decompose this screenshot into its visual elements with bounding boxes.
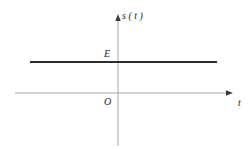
level-value-label: E: [104, 49, 110, 59]
origin-label: O: [104, 97, 111, 107]
y-axis-arrowhead: [115, 14, 120, 21]
plot-canvas: [0, 0, 252, 149]
x-axis-arrowhead: [226, 90, 233, 95]
y-axis-label: s ( t ): [122, 11, 143, 21]
constant-signal-plot-figure: s ( t ) E O t: [0, 0, 252, 149]
x-axis-label: t: [238, 98, 241, 108]
